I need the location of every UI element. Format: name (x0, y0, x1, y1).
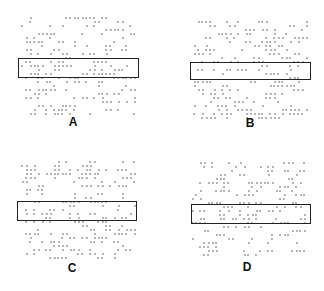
dot-pattern-canvas (0, 0, 324, 291)
panel-label-c: C (62, 261, 82, 275)
highlight-frame-d (191, 204, 311, 224)
panel-label-a: A (63, 115, 83, 129)
highlight-frame-a (18, 58, 139, 78)
panel-label-b: B (240, 116, 260, 130)
highlight-frame-b (190, 62, 311, 80)
highlight-frame-c (17, 201, 137, 221)
panel-label-d: D (237, 260, 257, 274)
